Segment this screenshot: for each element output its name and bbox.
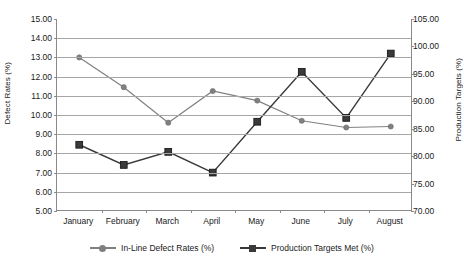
y-axis-left-tickmark <box>54 173 57 174</box>
y-axis-left-tick-label: 15.00 <box>31 14 52 24</box>
y-axis-right-ticks: 70.0075.0080.0085.0090.0095.00100.00105.… <box>413 0 457 264</box>
gridline <box>57 38 411 39</box>
y-axis-right-tickmark <box>411 184 414 185</box>
gridline <box>57 77 411 78</box>
gridline <box>57 134 411 135</box>
y-axis-right-tickmark <box>411 129 414 130</box>
y-axis-left-tick-label: 10.00 <box>31 110 52 120</box>
x-axis-tick-label: January <box>63 216 93 226</box>
y-axis-right-tick-label: 75.00 <box>413 179 434 189</box>
y-axis-right-tick-label: 90.00 <box>413 96 434 106</box>
gridline <box>57 115 411 116</box>
y-axis-left-tickmark <box>54 57 57 58</box>
plot-area <box>56 19 412 211</box>
y-axis-left-tick-label: 9.00 <box>35 129 52 139</box>
dual-axis-line-chart: Defect Rates (%) Production Targets (%) … <box>0 0 464 264</box>
y-axis-left-tickmark <box>54 77 57 78</box>
legend-item: Production Targets Met (%) <box>240 243 374 253</box>
y-axis-left-tick-label: 11.00 <box>31 91 52 101</box>
series-line <box>79 54 391 173</box>
y-axis-left-tick-label: 5.00 <box>35 206 52 216</box>
x-axis-tick-label: May <box>248 216 264 226</box>
legend-label: In-Line Defect Rates (%) <box>121 243 214 253</box>
x-axis-tickmark <box>191 210 192 213</box>
y-axis-right-tickmark <box>411 46 414 47</box>
y-axis-right-tickmark <box>411 101 414 102</box>
y-axis-right-tick-label: 105.00 <box>413 14 439 24</box>
x-axis-tickmark <box>102 210 103 213</box>
y-axis-left-tick-label: 12.00 <box>31 72 52 82</box>
y-axis-left-tickmark <box>54 115 57 116</box>
x-axis-tick-label: March <box>155 216 179 226</box>
y-axis-right-tick-label: 100.00 <box>413 41 439 51</box>
x-axis-tickmark <box>146 210 147 213</box>
y-axis-right-tickmark <box>411 74 414 75</box>
y-axis-left-tickmark <box>54 134 57 135</box>
data-point-marker <box>254 118 261 125</box>
data-point-marker <box>299 118 304 123</box>
legend-marker <box>99 245 106 252</box>
data-point-marker <box>76 141 83 148</box>
data-point-marker <box>166 120 171 125</box>
y-axis-left-tick-label: 8.00 <box>35 148 52 158</box>
data-point-marker <box>120 162 127 169</box>
legend-label: Production Targets Met (%) <box>271 243 374 253</box>
y-axis-left-tickmark <box>54 96 57 97</box>
y-axis-left-tick-label: 13.00 <box>31 52 52 62</box>
x-axis-tick-label: July <box>338 216 353 226</box>
gridline <box>57 192 411 193</box>
x-axis-tickmark <box>235 210 236 213</box>
legend-marker <box>249 245 256 252</box>
y-axis-right-tick-label: 85.00 <box>413 124 434 134</box>
legend-square-marker-icon <box>240 243 266 253</box>
y-axis-left-tickmark <box>54 192 57 193</box>
data-point-marker <box>344 125 349 130</box>
y-axis-right-tickmark <box>411 156 414 157</box>
y-axis-left-tick-label: 7.00 <box>35 168 52 178</box>
x-axis-tickmark <box>280 210 281 213</box>
x-axis-tick-label: August <box>377 216 403 226</box>
y-axis-left-tickmark <box>54 19 57 20</box>
gridline <box>57 96 411 97</box>
x-axis-tickmark <box>324 210 325 213</box>
x-axis-tick-label: June <box>292 216 310 226</box>
data-point-marker <box>210 88 215 93</box>
x-axis-tick-label: February <box>106 216 140 226</box>
y-axis-right-tick-label: 95.00 <box>413 69 434 79</box>
y-axis-left-tickmark <box>54 211 57 212</box>
data-point-marker <box>298 68 305 75</box>
y-axis-left-tickmark <box>54 153 57 154</box>
data-point-marker <box>388 124 393 129</box>
legend-circle-marker-icon <box>90 243 116 253</box>
y-axis-right-tickmark <box>411 211 414 212</box>
y-axis-right-tickmark <box>411 19 414 20</box>
y-axis-right-tick-label: 70.00 <box>413 206 434 216</box>
y-axis-left-tickmark <box>54 38 57 39</box>
gridline <box>57 57 411 58</box>
y-axis-left-ticks: 5.006.007.008.009.0010.0011.0012.0013.00… <box>14 0 52 264</box>
y-axis-right-tick-label: 80.00 <box>413 151 434 161</box>
chart-legend: In-Line Defect Rates (%)Production Targe… <box>0 243 464 253</box>
y-axis-left-tick-label: 6.00 <box>35 187 52 197</box>
x-axis-tick-label: April <box>203 216 220 226</box>
y-axis-left-tick-label: 14.00 <box>31 33 52 43</box>
gridline <box>57 153 411 154</box>
x-axis-tickmark <box>369 210 370 213</box>
data-point-marker <box>121 85 126 90</box>
legend-item: In-Line Defect Rates (%) <box>90 243 214 253</box>
data-point-marker <box>255 98 260 103</box>
y-axis-left-title: Defect Rates (%) <box>3 62 12 125</box>
data-point-marker <box>387 50 394 57</box>
gridline <box>57 173 411 174</box>
